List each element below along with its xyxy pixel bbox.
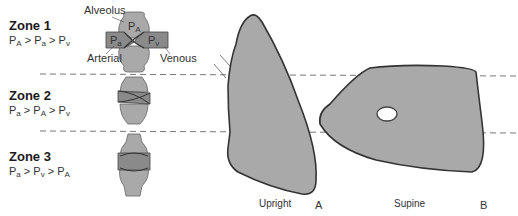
venous-label: Venous [160, 52, 197, 64]
zone3-equation: Pa > Pv > PA [9, 164, 70, 182]
venous-pressure-label: Pv [148, 34, 159, 50]
panel-a-letter: A [315, 199, 322, 211]
zone2-label: Zone 2 Pa > PA > Pv [9, 88, 70, 121]
supine-lung-icon [320, 65, 484, 172]
zone1-equation: PA > Pa > Pv [9, 33, 70, 51]
zone1-label: Zone 1 PA > Pa > Pv [9, 18, 70, 51]
panel-b-letter: B [480, 199, 487, 211]
diagram-canvas [0, 0, 518, 216]
supine-caption: Supine [394, 198, 425, 209]
zone2-capillary-icon [118, 77, 150, 124]
zone3-label: Zone 3 Pa > Pv > PA [9, 149, 70, 182]
alveolus-label: Alveolus [84, 4, 126, 16]
zone1-title: Zone 1 [9, 18, 70, 33]
zone2-equation: Pa > PA > Pv [9, 103, 70, 121]
alveolar-pressure-label: PA [128, 20, 141, 36]
arterial-pressure-label: Pa [110, 34, 122, 50]
zone3-capillary-icon [118, 134, 150, 196]
upright-caption: Upright [259, 198, 291, 209]
arterial-label: Arterial [87, 52, 122, 64]
zone2-title: Zone 2 [9, 88, 70, 103]
zone3-title: Zone 3 [9, 149, 70, 164]
upright-lung-icon [214, 15, 316, 194]
